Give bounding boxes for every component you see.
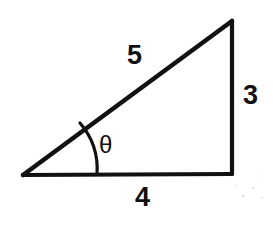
- opposite-side-label: 3: [243, 82, 258, 109]
- hypotenuse-label: 5: [127, 42, 142, 69]
- angle-theta-label: θ: [99, 133, 112, 157]
- adjacent-side-line: [23, 174, 232, 175]
- adjacent-side-label: 4: [135, 184, 150, 211]
